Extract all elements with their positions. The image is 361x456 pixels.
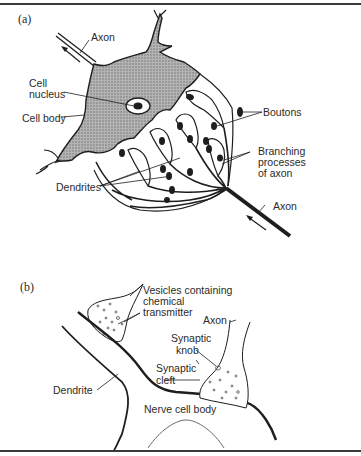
label-cell-nucleus-2: nucleus xyxy=(29,88,65,100)
nucleolus-shape xyxy=(134,103,143,110)
label-axon-bottom: Axon xyxy=(273,200,297,212)
label-synaptic-cleft-1: Synaptic xyxy=(156,362,196,374)
panel-b-label: (b) xyxy=(20,280,34,295)
label-dendrite: Dendrite xyxy=(53,384,93,396)
label-dendrites: Dendrites xyxy=(56,181,101,193)
label-synaptic-cleft-2: cleft xyxy=(156,374,175,386)
label-vesicles-3: transmitter xyxy=(143,306,193,318)
label-synaptic-knob-1: Synaptic xyxy=(171,332,211,344)
panel-a-neuron xyxy=(36,10,290,236)
panel-a-label: (a) xyxy=(18,12,31,27)
label-axon-b: Axon xyxy=(203,314,227,326)
label-boutons: Boutons xyxy=(263,106,302,118)
neuron-figure: (a) (b) Axon Cell nucleus Cell body Bout… xyxy=(0,0,361,456)
axon-bottom-right xyxy=(226,188,290,236)
cell-body-shape xyxy=(56,14,200,162)
label-nerve-cell-body: Nerve cell body xyxy=(144,403,216,415)
label-cell-body: Cell body xyxy=(22,112,66,124)
nerve-cell-nucleus-arc xyxy=(148,420,224,448)
axon-top-left xyxy=(56,33,96,66)
label-branching-3: of axon xyxy=(258,167,292,179)
label-synaptic-knob-2: knob xyxy=(176,344,199,356)
label-axon-top: Axon xyxy=(91,31,115,43)
